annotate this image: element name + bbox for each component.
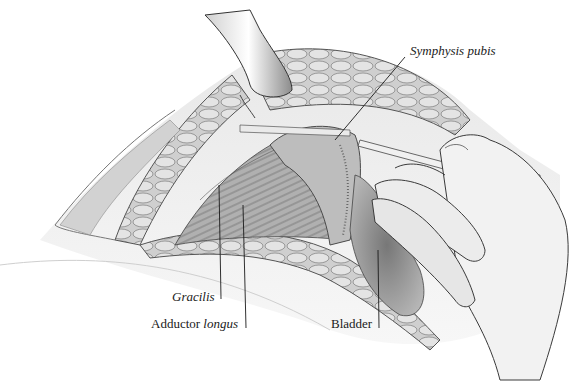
- illustration-canvas: [0, 0, 583, 387]
- label-bladder: Bladder: [331, 317, 372, 330]
- label-adductor-text: Adductor: [151, 316, 203, 331]
- label-symphysis-pubis: Symphysis pubis: [410, 44, 496, 57]
- label-adductor-longus: Adductor longus: [151, 317, 238, 330]
- anatomical-illustration: Symphysis pubis Gracilis Adductor longus…: [0, 0, 583, 387]
- label-gracilis-text: Gracilis: [172, 289, 215, 304]
- label-gracilis: Gracilis: [172, 290, 215, 303]
- label-bladder-text: Bladder: [331, 316, 372, 331]
- label-longus-text: longus: [203, 316, 238, 331]
- label-symphysis-text: Symphysis pubis: [410, 43, 496, 58]
